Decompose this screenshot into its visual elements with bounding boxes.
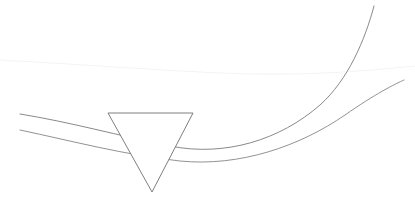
background-rect xyxy=(0,0,415,201)
diagram-svg xyxy=(0,0,415,201)
diagram-canvas xyxy=(0,0,415,201)
